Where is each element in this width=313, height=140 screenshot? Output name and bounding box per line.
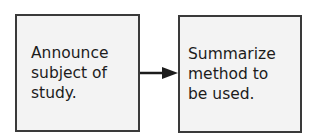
- flow-step-summarize-method: Summarize method to be used.: [178, 15, 302, 133]
- flow-step-label: Summarize method to be used.: [188, 44, 276, 104]
- flow-step-announce-subject: Announce subject of study.: [15, 14, 140, 132]
- arrow-right-icon: [140, 66, 178, 80]
- flow-step-label: Announce subject of study.: [31, 43, 108, 103]
